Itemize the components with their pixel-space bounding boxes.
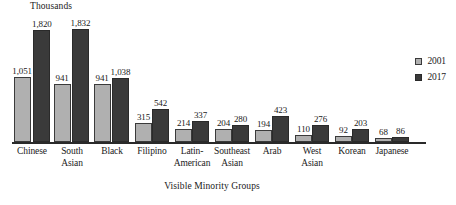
x-tick-label: Black	[92, 146, 132, 169]
x-tick-label-line: South	[52, 146, 92, 158]
bar-group: 110276	[292, 18, 332, 142]
bar-item: 1,832	[71, 18, 91, 142]
x-tick-label-line: Asian	[212, 158, 252, 170]
bar-group: 315542	[132, 18, 172, 142]
x-tick-label: Filipino	[132, 146, 172, 169]
x-tick-label: Arab	[252, 146, 292, 169]
bar-value-label: 203	[354, 118, 367, 128]
bar-group: 9411,038	[92, 18, 132, 142]
bar-group: 92203	[332, 18, 372, 142]
bar-item: 92	[335, 18, 352, 142]
bar-value-label: 68	[379, 127, 388, 137]
legend-swatch-icon	[415, 58, 422, 65]
bar-value-label: 280	[234, 114, 247, 124]
x-tick-label-line: Southeast	[212, 146, 252, 158]
bar-2017-southeast-asian	[232, 125, 249, 142]
x-axis-title: Visible Minority Groups	[12, 181, 412, 191]
bar-value-label: 423	[274, 105, 287, 115]
bar-item: 86	[392, 18, 409, 142]
x-tick-label: SoutheastAsian	[212, 146, 252, 169]
legend-swatch-icon	[415, 74, 422, 81]
x-tick-label-line: Black	[92, 146, 132, 158]
x-tick-label: WestAsian	[292, 146, 332, 169]
bar-item: 941	[54, 18, 71, 142]
bar-2017-black	[112, 78, 129, 142]
bar-group: 6886	[372, 18, 412, 142]
bar-value-label: 315	[137, 112, 150, 122]
bar-item: 204	[215, 18, 232, 142]
bar-group: 214337	[172, 18, 212, 142]
bar-item: 1,820	[32, 18, 52, 142]
bar-group: 194423	[252, 18, 292, 142]
bar-group: 9411,832	[52, 18, 92, 142]
x-axis-tick-labels: ChineseSouthAsianBlackFilipinoLatin-Amer…	[12, 146, 412, 169]
x-tick-label-line: Arab	[252, 146, 292, 158]
bar-2001-southeast-asian	[215, 129, 232, 142]
bar-item: 941	[94, 18, 111, 142]
bar-2001-filipino	[135, 123, 152, 142]
x-tick-label-line: Latin-	[172, 146, 212, 158]
bar-item: 194	[255, 18, 272, 142]
bar-2017-korean	[352, 129, 369, 142]
bar-2001-latin-american	[175, 129, 192, 142]
bar-item: 337	[192, 18, 209, 142]
x-tick-label-line: American	[172, 158, 212, 170]
x-tick-label-line: Asian	[292, 158, 332, 170]
x-tick-label-line: Korean	[332, 146, 372, 158]
bar-2001-black	[94, 84, 111, 142]
x-tick-label-line: Chinese	[12, 146, 52, 158]
bar-item: 203	[352, 18, 369, 142]
bar-2017-arab	[272, 116, 289, 142]
bar-2017-latin-american	[192, 121, 209, 142]
bar-value-label: 1,832	[71, 18, 91, 28]
bar-2017-chinese	[33, 30, 50, 142]
visible-minority-bar-chart: Thousands 1,0511,8209411,8329411,0383155…	[0, 0, 456, 205]
bar-value-label: 941	[96, 73, 109, 83]
bar-item: 110	[295, 18, 312, 142]
bar-value-label: 92	[339, 125, 348, 135]
x-tick-label: SouthAsian	[52, 146, 92, 169]
bar-value-label: 1,820	[32, 19, 52, 29]
x-tick-label-line: Filipino	[132, 146, 172, 158]
plot-area: 1,0511,8209411,8329411,03831554221433720…	[12, 18, 412, 142]
bar-group: 204280	[212, 18, 252, 142]
bar-item: 1,038	[111, 18, 131, 142]
bar-value-label: 214	[177, 118, 190, 128]
bar-item: 315	[135, 18, 152, 142]
bar-value-label: 941	[56, 73, 69, 83]
x-tick-label-line: Japanese	[372, 146, 412, 158]
bar-value-label: 276	[314, 114, 327, 124]
bar-2001-chinese	[14, 77, 31, 142]
bar-item: 276	[312, 18, 329, 142]
unit-label: Thousands	[30, 1, 72, 11]
bar-2017-west-asian	[312, 125, 329, 142]
legend-item-2017[interactable]: 2017	[415, 72, 446, 82]
bar-group: 1,0511,820	[12, 18, 52, 142]
bar-value-label: 194	[257, 119, 270, 129]
legend-label: 2001	[427, 56, 446, 66]
bar-2001-west-asian	[295, 135, 312, 142]
bar-2017-filipino	[152, 109, 169, 142]
bar-groups: 1,0511,8209411,8329411,03831554221433720…	[12, 18, 412, 142]
legend-item-2001[interactable]: 2001	[415, 56, 446, 66]
bar-item: 68	[375, 18, 392, 142]
bar-value-label: 110	[297, 124, 310, 134]
bar-item: 1,051	[12, 18, 32, 142]
x-tick-label: Chinese	[12, 146, 52, 169]
bar-value-label: 86	[396, 126, 405, 136]
bar-value-label: 542	[154, 98, 167, 108]
bar-2017-south-asian	[72, 29, 89, 142]
x-tick-label: Japanese	[372, 146, 412, 169]
bar-2001-arab	[255, 130, 272, 142]
x-tick-label: Latin-American	[172, 146, 212, 169]
bar-2001-south-asian	[54, 84, 71, 142]
bar-item: 423	[272, 18, 289, 142]
bar-value-label: 1,038	[111, 67, 131, 77]
bar-value-label: 204	[217, 118, 230, 128]
bar-item: 280	[232, 18, 249, 142]
bar-value-label: 337	[194, 110, 207, 120]
x-axis-line	[12, 142, 426, 144]
x-tick-label: Korean	[332, 146, 372, 169]
legend-label: 2017	[427, 72, 446, 82]
legend: 20012017	[415, 56, 446, 82]
